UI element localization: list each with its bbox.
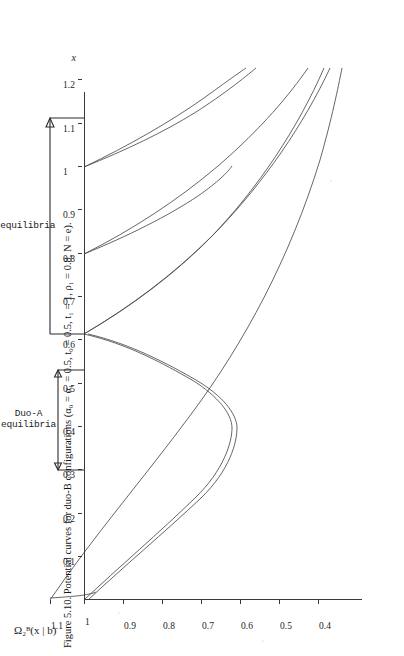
figure-page: 0.1 0.2 0.3 0.4 0.5 0.6 0.7 0.8 0.9 1 1.… bbox=[0, 0, 404, 656]
scan-speck bbox=[118, 612, 120, 614]
figure-caption: Figure 5.10. Potential curves for duo-B … bbox=[62, 8, 73, 648]
scan-speck bbox=[262, 640, 264, 642]
scan-speck bbox=[200, 470, 201, 471]
figure-plate: 0.1 0.2 0.3 0.4 0.5 0.6 0.7 0.8 0.9 1 1.… bbox=[0, 0, 404, 656]
plot-area: 0.1 0.2 0.3 0.4 0.5 0.6 0.7 0.8 0.9 1 1.… bbox=[32, 28, 372, 628]
duo-b-equilibria-label: Duo-B equilibria bbox=[0, 221, 95, 232]
scan-speck bbox=[330, 180, 332, 182]
figure-caption-text: Figure 5.10. Potential curves for duo-B … bbox=[62, 222, 73, 648]
equilibria-brackets bbox=[32, 28, 372, 628]
